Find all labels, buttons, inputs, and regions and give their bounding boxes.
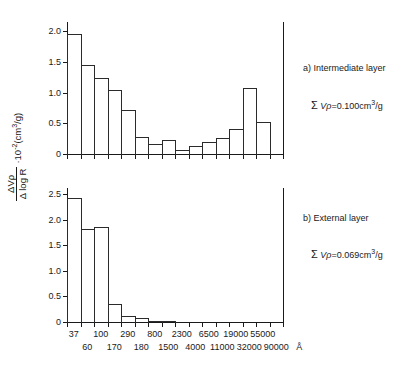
x-axis-tick — [148, 155, 149, 159]
y-axis-tick-label: 2.5 — [29, 190, 61, 199]
histogram-bar — [108, 304, 122, 323]
x-axis-tick — [81, 323, 82, 327]
sum-unit-open: cm — [359, 250, 371, 260]
histogram-bar — [256, 122, 271, 155]
histogram-bar — [94, 78, 109, 155]
x-axis-tick — [148, 323, 149, 327]
histogram-bar — [243, 88, 257, 155]
x-axis-tick — [229, 155, 230, 159]
y-axis-tick-label: 0 — [29, 318, 61, 327]
annotation-label-external: b) External layer — [303, 212, 369, 224]
y-axis-multiplier: ·10-2(cm3/g) — [12, 113, 23, 164]
histogram-bar — [216, 138, 230, 155]
x-axis-tick — [283, 155, 284, 159]
x-axis-tick-label: 55000 — [241, 330, 285, 339]
x-axis-tick — [243, 323, 244, 327]
histogram-bar — [121, 110, 136, 155]
panel-external-layer: 00.51.01.52.02.5 — [67, 188, 283, 322]
y-axis-tick-label: 0 — [29, 150, 61, 159]
x-axis-tick — [256, 323, 257, 327]
x-axis-tick — [256, 155, 257, 159]
sigma-symbol: Σ — [311, 248, 318, 260]
annotation-label-intermediate: a) Intermediate layer — [303, 62, 386, 74]
x-axis-tick — [175, 323, 176, 327]
histogram-bar — [229, 129, 244, 155]
sum-unit-open: cm — [359, 101, 371, 111]
panel-intermediate-layer: 00.51.01.52.0 — [67, 22, 283, 154]
sum-unit-close: /g — [375, 250, 383, 260]
x-axis-tick — [229, 323, 230, 327]
y-axis-label: ΔVρ Δ log R ·10-2(cm3/g) — [4, 82, 30, 232]
y-axis-tick — [63, 31, 67, 32]
x-axis-tick-label: 90000 — [254, 343, 298, 352]
x-axis-unit-label: Å — [296, 343, 302, 352]
x-axis-tick — [162, 155, 163, 159]
x-axis-tick — [135, 155, 136, 159]
y-axis-fraction: ΔVρ Δ log R — [6, 167, 29, 202]
y-axis-multiplier-base: ·10 — [12, 150, 23, 164]
x-axis-tick — [67, 155, 68, 159]
histogram-bar — [81, 229, 95, 323]
y-axis-exponent: -2 — [10, 144, 17, 150]
x-axis-tick — [108, 323, 109, 327]
histogram-bar — [108, 90, 122, 155]
histogram-bar — [135, 137, 149, 155]
x-axis-tick — [189, 323, 190, 327]
x-axis-tick — [243, 155, 244, 159]
x-axis-tick — [270, 323, 271, 327]
x-axis-tick — [121, 323, 122, 327]
y-axis-tick — [63, 194, 67, 195]
histogram-bar — [94, 227, 109, 323]
histogram-bar — [148, 144, 163, 155]
x-axis-tick — [216, 155, 217, 159]
y-axis-unit-exponent: 3 — [10, 124, 17, 128]
plot-area-intermediate: 00.51.01.52.0 — [67, 22, 283, 154]
histogram-bar — [148, 321, 163, 323]
right-axis-line — [283, 188, 284, 322]
sigma-symbol: Σ — [311, 99, 318, 111]
histogram-bar — [202, 142, 217, 155]
y-axis-tick-label: 1.0 — [29, 89, 61, 98]
histogram-bar — [175, 150, 190, 155]
y-axis-tick-label: 2.0 — [29, 27, 61, 36]
x-axis-tick — [216, 323, 217, 327]
x-axis-tick — [283, 323, 284, 327]
y-axis-tick-label: 2.0 — [29, 216, 61, 225]
histogram-bar — [67, 34, 82, 155]
histogram-bar — [162, 140, 176, 155]
y-axis-tick-label: 0.5 — [29, 119, 61, 128]
x-axis-tick — [202, 323, 203, 327]
x-axis-tick — [94, 155, 95, 159]
sum-value: 0.100 — [337, 101, 360, 111]
plot-area-external: 00.51.01.52.02.5 — [67, 188, 283, 322]
histogram-bar — [162, 321, 176, 323]
x-axis-tick — [202, 155, 203, 159]
x-axis-tick — [81, 155, 82, 159]
y-axis-tick-label: 0.5 — [29, 292, 61, 301]
histogram-bar — [67, 198, 82, 323]
histogram-bar — [81, 65, 95, 155]
x-axis-tick — [108, 155, 109, 159]
y-axis-tick-label: 1.0 — [29, 267, 61, 276]
sum-unit-close: /g — [375, 101, 383, 111]
x-axis-tick — [175, 155, 176, 159]
x-axis-tick — [189, 155, 190, 159]
y-axis-tick-label: 1.5 — [29, 241, 61, 250]
x-axis-tick — [162, 323, 163, 327]
x-axis-tick — [94, 323, 95, 327]
annotation-sum-external: Σ Vρ=0.069cm3/g — [311, 248, 383, 261]
y-axis-denominator: Δ log R — [16, 167, 28, 202]
histogram-bar — [135, 318, 149, 323]
x-axis-tick — [67, 323, 68, 327]
histogram-bar — [121, 316, 136, 323]
annotation-sum-intermediate: Σ Vρ=0.100cm3/g — [311, 99, 383, 112]
sum-value: 0.069 — [337, 250, 360, 260]
histogram-bar — [189, 146, 203, 155]
x-axis-tick — [270, 155, 271, 159]
y-axis-tick-label: 1.5 — [29, 58, 61, 67]
y-axis-numerator: ΔVρ — [6, 173, 16, 195]
right-axis-line — [283, 22, 284, 154]
y-axis-unit-open: (cm — [12, 128, 23, 144]
y-axis-unit-close: /g) — [12, 113, 23, 124]
x-axis-tick — [121, 155, 122, 159]
